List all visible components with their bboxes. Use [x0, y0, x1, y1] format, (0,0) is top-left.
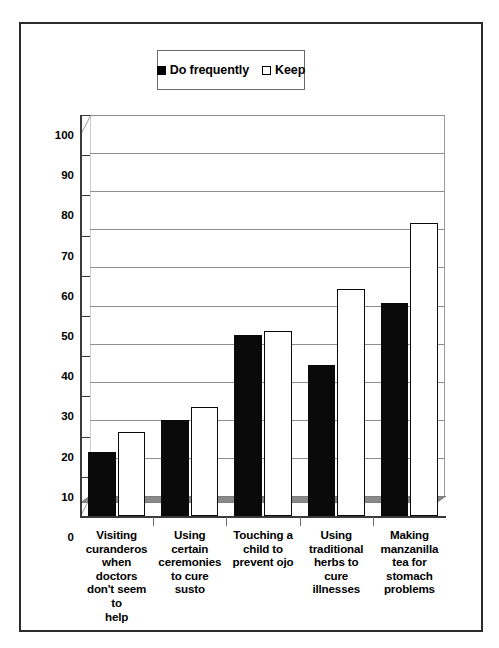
gridline: [90, 115, 445, 116]
bar-keep: [410, 223, 438, 516]
legend-entry-do-frequently: Do frequently: [157, 63, 249, 77]
y-tick-mark: [80, 316, 90, 317]
hollow-square-swatch-icon: [262, 66, 271, 75]
y-axis-line: [80, 115, 82, 517]
y-tick-label: 50: [61, 331, 74, 343]
legend-label-do-frequently: Do frequently: [170, 63, 249, 77]
bar-keep: [118, 432, 146, 516]
category-label-line: prevent ojo: [233, 555, 294, 568]
legend-entry-keep: Keep: [262, 63, 305, 77]
category-label-line: Using certain: [171, 528, 208, 555]
y-tick-mark: [80, 195, 90, 196]
x-axis-category-labels: Visitingcuranderoswhen doctorsdon't seem…: [80, 528, 446, 628]
y-tick-mark: [80, 276, 90, 277]
category-label-line: Making: [390, 528, 429, 541]
plot-area: 1009080706050403020100: [80, 94, 446, 498]
gridline: [90, 153, 445, 154]
y-tick-label: 90: [61, 170, 74, 182]
category-label-line: manzanilla: [381, 542, 439, 555]
category-label-line: ceremonies: [158, 555, 221, 568]
category-label-line: don't seem to: [87, 582, 146, 609]
x-tick-mark: [373, 517, 374, 526]
category-label-line: tea for: [392, 555, 426, 568]
category-label-line: child to: [243, 542, 283, 555]
category-label: Visitingcuranderoswhen doctorsdon't seem…: [80, 528, 153, 628]
category-label-line: herbs to cure: [314, 555, 359, 582]
y-tick-label: 70: [61, 251, 74, 263]
y-tick-label: 20: [61, 452, 74, 464]
category-label-line: problems: [384, 582, 435, 595]
bar-do-frequently: [308, 365, 336, 516]
bar-do-frequently: [381, 303, 409, 516]
category-label: Makingmanzanillatea forstomachproblems: [373, 528, 446, 628]
y-tick-mark: [80, 437, 90, 438]
y-tick-mark: [80, 356, 90, 357]
y-tick-label: 100: [55, 130, 74, 142]
category-label-line: to cure susto: [171, 569, 209, 596]
gridline: [90, 267, 445, 268]
category-label: Usingtraditionalherbs to cureillnesses: [300, 528, 373, 628]
bar-keep: [337, 289, 365, 516]
x-axis-line: [80, 516, 446, 518]
y-tick-label: 80: [61, 210, 74, 222]
category-label-line: illnesses: [312, 582, 360, 595]
category-label-line: Touching a: [233, 528, 292, 541]
bar-do-frequently: [161, 420, 189, 516]
category-label-line: when doctors: [96, 555, 137, 582]
y-tick-mark: [80, 115, 90, 116]
y-tick-label: 30: [61, 411, 74, 423]
x-tick-mark: [153, 517, 154, 526]
category-label-line: stomach: [386, 569, 433, 582]
category-label: Using certainceremoniesto cure susto: [153, 528, 226, 628]
gridline: [90, 191, 445, 192]
y-tick-mark: [80, 236, 90, 237]
y-axis-tick-labels: 1009080706050403020100: [42, 115, 74, 517]
chart-legend: Do frequently Keep: [157, 50, 305, 90]
category-label-line: Visiting: [96, 528, 136, 541]
legend-label-keep: Keep: [275, 63, 305, 77]
x-tick-mark: [300, 517, 301, 526]
category-label: Touching achild toprevent ojo: [226, 528, 299, 628]
chart-figure: Do frequently Keep 100908070605040302010…: [19, 22, 483, 632]
bar-keep: [264, 331, 292, 516]
bar-do-frequently: [88, 452, 116, 516]
category-label-line: curanderos: [86, 542, 148, 555]
category-label-line: traditional: [309, 542, 363, 555]
y-tick-mark: [80, 396, 90, 397]
y-tick-label: 60: [61, 291, 74, 303]
filled-square-swatch-icon: [157, 66, 166, 75]
y-tick-label: 10: [61, 492, 74, 504]
category-label-line: Using: [320, 528, 351, 541]
y-tick-label: 0: [68, 532, 74, 544]
x-tick-mark: [226, 517, 227, 526]
category-label-line: help: [105, 610, 128, 623]
y-tick-label: 40: [61, 371, 74, 383]
bar-do-frequently: [234, 335, 262, 516]
y-tick-mark: [80, 155, 90, 156]
gridline: [90, 229, 445, 230]
bar-keep: [191, 407, 219, 516]
